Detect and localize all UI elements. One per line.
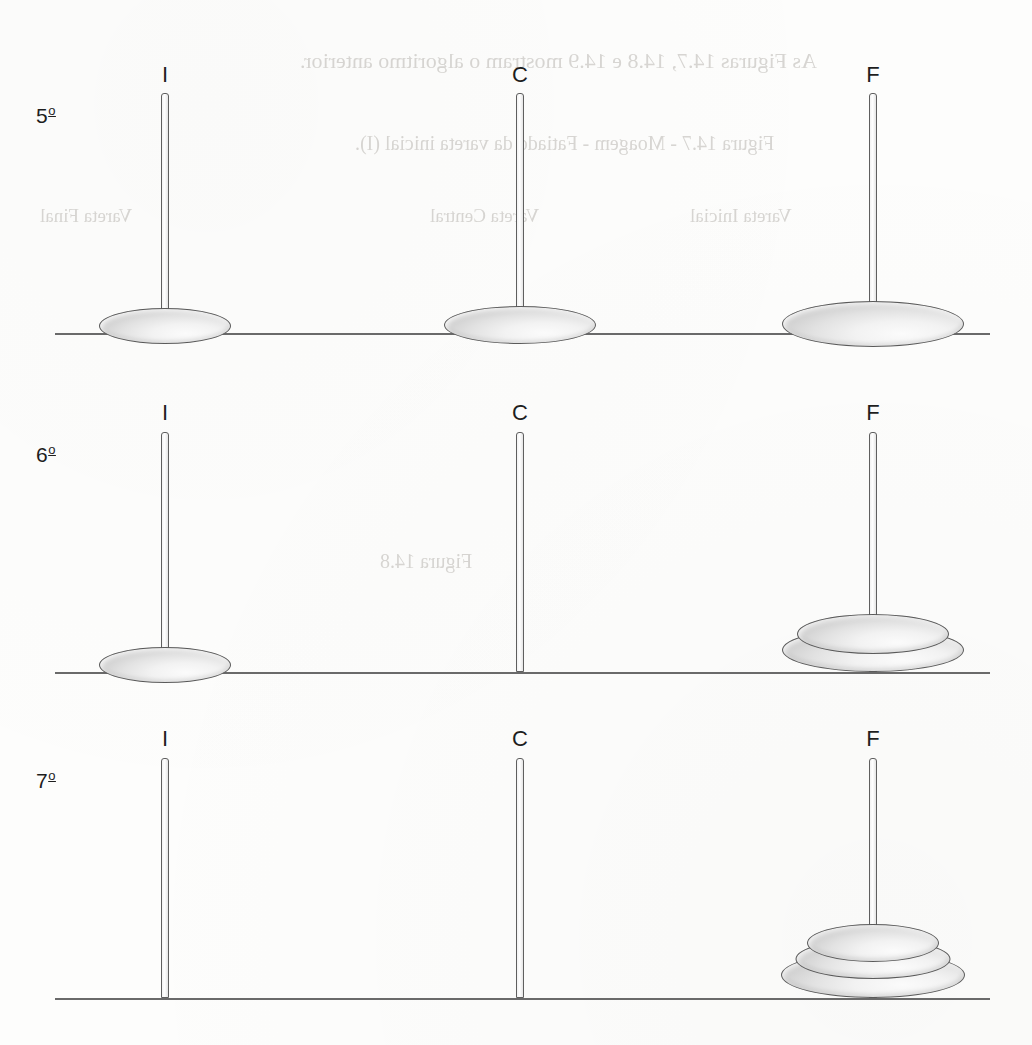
peg-rod-f[interactable]	[869, 93, 877, 333]
step-number-value: 5	[36, 104, 48, 127]
step-number-value: 6	[36, 443, 48, 466]
peg-rod-i[interactable]	[161, 432, 169, 672]
ground-baseline	[55, 998, 990, 1000]
disc-size-1[interactable]	[807, 924, 939, 962]
ordinal-indicator: o	[48, 442, 56, 457]
peg-label-f: F	[866, 62, 879, 88]
peg-label-i: I	[162, 62, 168, 88]
peg-label-c: C	[512, 400, 528, 426]
step-number-label: 7o	[36, 768, 56, 793]
peg-label-f: F	[866, 400, 879, 426]
step-number-label: 6o	[36, 442, 56, 467]
peg-rod-c[interactable]	[516, 93, 524, 333]
peg-label-f: F	[866, 726, 879, 752]
step-number-value: 7	[36, 769, 48, 792]
step-number-label: 5o	[36, 103, 56, 128]
disc-size-1[interactable]	[99, 308, 231, 344]
peg-rod-i[interactable]	[161, 758, 169, 998]
peg-rod-c[interactable]	[516, 432, 524, 672]
disc-size-2[interactable]	[444, 306, 596, 344]
ordinal-indicator: o	[48, 103, 56, 118]
peg-label-i: I	[162, 726, 168, 752]
disc-size-1[interactable]	[99, 647, 231, 683]
peg-label-i: I	[162, 400, 168, 426]
peg-label-c: C	[512, 62, 528, 88]
disc-size-3[interactable]	[782, 301, 964, 347]
ordinal-indicator: o	[48, 768, 56, 783]
peg-rod-i[interactable]	[161, 93, 169, 333]
peg-rod-c[interactable]	[516, 758, 524, 998]
peg-label-c: C	[512, 726, 528, 752]
disc-size-2[interactable]	[797, 614, 949, 654]
